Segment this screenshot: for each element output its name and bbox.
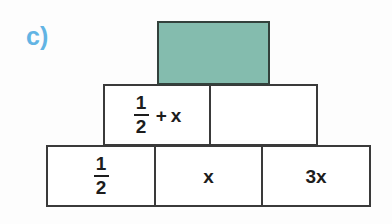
pyramid-cell-middle-right-answer[interactable]: [209, 84, 318, 146]
pyramid-cell-bottom-left[interactable]: 1 2: [46, 145, 156, 207]
fraction-one-half-bottom: 1 2: [94, 154, 109, 198]
pyramid-cell-middle-left[interactable]: 1 2 + x: [103, 84, 211, 146]
fraction-denominator: 2: [134, 117, 149, 137]
pyramid-cell-bottom-middle-content: x: [203, 167, 214, 186]
pyramid-cell-bottom-right[interactable]: 3x: [261, 145, 371, 207]
pyramid-cell-bottom-right-content: 3x: [305, 167, 326, 186]
fraction-one-half: 1 2: [134, 93, 149, 137]
expression-one-half: 1 2: [93, 154, 110, 198]
variable-x: x: [171, 106, 182, 125]
exercise-label-c: c): [26, 24, 48, 49]
fraction-numerator: 1: [94, 154, 109, 174]
expression-half-plus-x: 1 2 + x: [133, 93, 182, 137]
pyramid-cell-bottom-middle[interactable]: x: [154, 145, 263, 207]
pyramid-cell-top-answer[interactable]: [157, 21, 270, 85]
fraction-denominator: 2: [94, 178, 109, 198]
worksheet-canvas: c) 1 2 + x 1 2 x 3x: [0, 0, 392, 224]
plus-operator: +: [156, 106, 167, 125]
fraction-numerator: 1: [134, 93, 149, 113]
